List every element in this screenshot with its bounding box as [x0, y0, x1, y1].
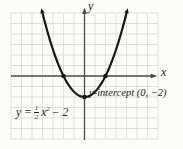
equation-lhs: y = — [16, 107, 32, 119]
y-axis-arrowhead — [82, 8, 87, 14]
y-intercept-dot — [82, 95, 87, 100]
parabola-graph — [0, 0, 183, 149]
parabola-figure: y x y-intercept (0, −2) y = 12 x2 − 2 — [0, 0, 183, 149]
fraction-denominator: 2 — [35, 113, 39, 121]
x-intercept-dot — [103, 74, 108, 79]
equation-exponent: 2 — [46, 105, 50, 113]
equation-variable-power: x2 — [41, 106, 50, 118]
x-axis-arrowhead — [151, 74, 157, 79]
fraction-numerator: 1 — [34, 104, 40, 113]
equation-tail: − 2 — [52, 107, 68, 119]
y-intercept-annotation: y-intercept (0, −2) — [89, 88, 167, 99]
x-axis-label: x — [161, 66, 166, 78]
y-axis-label: y — [88, 0, 93, 12]
x-intercept-dot — [61, 74, 66, 79]
equation-label: y = 12 x2 − 2 — [16, 104, 68, 121]
equation-fraction: 12 — [34, 104, 40, 121]
